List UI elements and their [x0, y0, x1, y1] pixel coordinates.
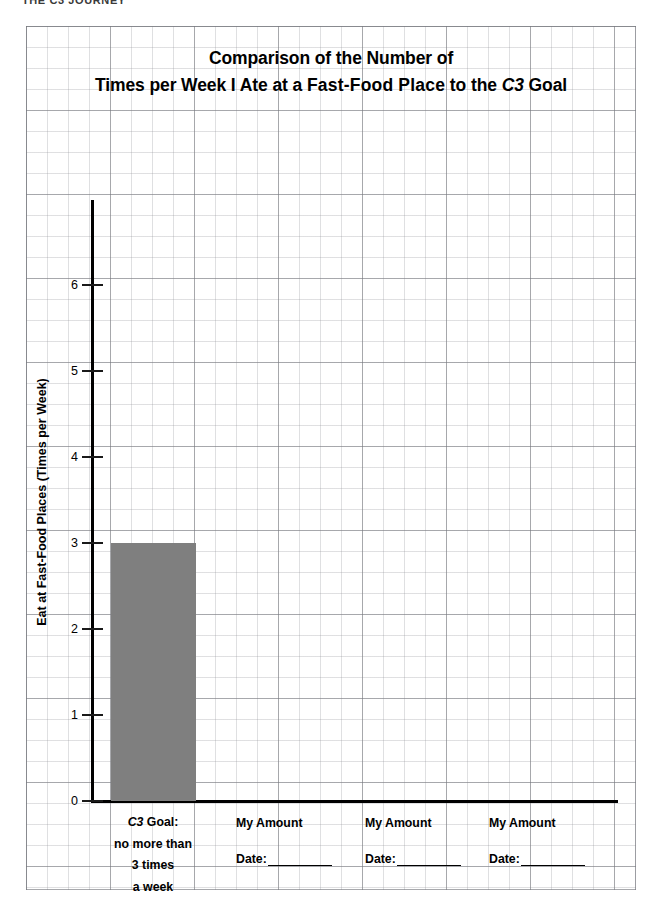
- y-tick-label-2: 2: [56, 623, 78, 635]
- y-axis-title: Eat at Fast-Food Places (Times per Week): [35, 292, 49, 712]
- date-input-blank-1[interactable]: [268, 854, 332, 866]
- date-input-blank-3[interactable]: [521, 854, 585, 866]
- plot-area: 0 1 2 3 4 5 6 Eat at Fast-Food Places (T…: [0, 0, 663, 913]
- my-amount-title-3: My Amount: [489, 816, 614, 830]
- y-tick-6: [82, 284, 103, 286]
- y-axis-line: [91, 200, 94, 803]
- c3-goal-c3-text: C3: [128, 815, 144, 829]
- my-amount-title-2: My Amount: [365, 816, 490, 830]
- y-tick-5: [82, 370, 103, 372]
- c3-goal-line-4: a week: [106, 877, 200, 899]
- category-label-c3-goal: C3 Goal: no more than 3 times a week: [106, 812, 200, 898]
- c3-goal-line-1: C3 Goal:: [106, 812, 200, 834]
- date-row-2: Date:: [365, 852, 490, 866]
- category-label-my-amount-2: My Amount Date:: [365, 816, 490, 866]
- y-tick-label-5: 5: [56, 365, 78, 377]
- c3-goal-line-3: 3 times: [106, 855, 200, 877]
- date-input-blank-2[interactable]: [397, 854, 461, 866]
- date-label-1: Date:: [236, 852, 267, 866]
- date-row-1: Date:: [236, 852, 361, 866]
- date-label-2: Date:: [365, 852, 396, 866]
- date-row-3: Date:: [489, 852, 614, 866]
- y-tick-label-3: 3: [56, 537, 78, 549]
- date-label-3: Date:: [489, 852, 520, 866]
- y-tick-label-4: 4: [56, 451, 78, 463]
- c3-goal-line-2: no more than: [106, 834, 200, 856]
- category-label-my-amount-3: My Amount Date:: [489, 816, 614, 866]
- bar-c3-goal: [111, 543, 196, 801]
- y-tick-label-0: 0: [56, 795, 78, 807]
- y-tick-label-6: 6: [56, 279, 78, 291]
- category-label-my-amount-1: My Amount Date:: [236, 816, 361, 866]
- y-tick-label-1: 1: [56, 709, 78, 721]
- y-tick-3: [82, 542, 103, 544]
- y-tick-4: [82, 456, 103, 458]
- c3-goal-word-goal: Goal:: [143, 815, 178, 829]
- my-amount-title-1: My Amount: [236, 816, 361, 830]
- y-tick-2: [82, 628, 103, 630]
- y-tick-1: [82, 714, 103, 716]
- y-tick-0: [82, 800, 103, 802]
